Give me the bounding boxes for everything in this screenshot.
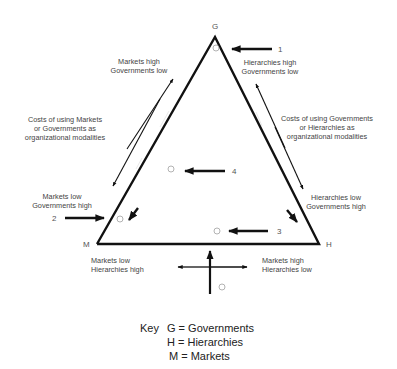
label-hierarchies-low-governments-high: Hierarchies low Governments high [300, 193, 372, 211]
label-markets-high-governments-low: Markets high Governments low [104, 57, 174, 75]
triangle-diagram [0, 0, 397, 369]
left-parallel-arrow-up [127, 79, 173, 149]
point-number-2: 2 [52, 214, 56, 223]
label-hierarchies-high-governments-low: Hierarchies high Governments low [232, 58, 308, 76]
label-markets-high-hierarchies-low: Markets high Hierarchies low [262, 256, 312, 274]
point-circle-5 [219, 284, 225, 290]
point-number-1: 1 [278, 45, 282, 54]
vertex-label-h: H [326, 240, 332, 249]
label-markets-low-hierarchies-high: Markets low Hierarchies high [91, 256, 144, 274]
pointer-arrow-2b [129, 208, 138, 220]
label-markets-low-governments-high: Markets low Governments high [26, 192, 98, 210]
key-title: Key [140, 321, 159, 335]
key-entry-markets: M = Markets [169, 349, 230, 363]
vertex-label-g: G [212, 22, 218, 31]
point-circle-3 [214, 228, 220, 234]
label-costs-governments-hierarchies: Costs of using Governments or Hierarchie… [272, 114, 382, 141]
point-circle-2 [117, 216, 123, 222]
point-circle-1 [213, 45, 219, 51]
point-number-4: 4 [232, 167, 236, 176]
key-entry-hierarchies: H = Hierarchies [167, 335, 243, 349]
vertex-label-m: M [83, 240, 90, 249]
point-circle-4 [168, 166, 174, 172]
label-costs-markets-governments: Costs of using Markets or Governments as… [16, 115, 114, 142]
right-edge-arrow-down [282, 170, 288, 183]
key-entry-governments: G = Governments [167, 321, 254, 335]
point-number-3: 3 [277, 227, 281, 236]
pointer-arrow-h [287, 210, 297, 222]
